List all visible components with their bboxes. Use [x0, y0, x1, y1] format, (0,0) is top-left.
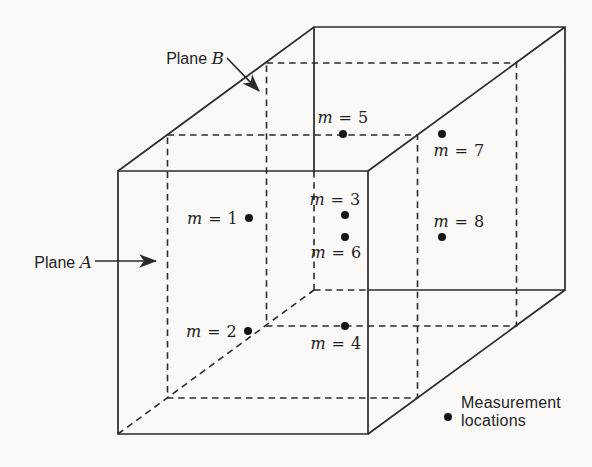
measurement-dot-m1 [245, 214, 253, 222]
plane-a-label: Plane A [34, 252, 92, 272]
plane-b-outline [267, 63, 517, 326]
measurement-dot-m2 [244, 327, 252, 335]
measurement-dot-m8 [438, 233, 446, 241]
measurement-label-m5: m = 5 [318, 108, 369, 127]
legend-line-2: locations [461, 412, 561, 430]
measurement-label-m8: m = 8 [434, 212, 485, 231]
measurement-label-m3: m = 3 [310, 190, 361, 209]
plane-a-letter: A [80, 252, 92, 272]
measurement-label-m7: m = 7 [434, 141, 485, 160]
legend-dot [444, 413, 452, 421]
plane-a-outline [168, 135, 418, 398]
plane-b-word: Plane [166, 50, 207, 67]
plane-b-arrow [227, 58, 259, 91]
measurement-label-m1: m = 1 [187, 209, 238, 228]
plane-a-word: Plane [34, 254, 75, 271]
measurement-dot-m6 [341, 233, 349, 241]
legend: Measurement locations [461, 394, 561, 430]
measurement-dot-m3 [341, 211, 349, 219]
plane-b-letter: B [212, 48, 225, 68]
plane-b-label: Plane B [166, 48, 224, 68]
measurement-label-m4: m = 4 [311, 334, 362, 353]
pointer-arrows [95, 58, 259, 261]
measurement-dot-m4 [341, 322, 349, 330]
measurement-label-m2: m = 2 [186, 322, 237, 341]
measurement-box-diagram: Plane B Plane A m = 1m = 2m = 3m = 4m = … [0, 0, 592, 467]
box-front-face [118, 171, 368, 434]
box-visible-edges [118, 27, 565, 434]
measurement-dot-m5 [339, 130, 347, 138]
measurement-label-m6: m = 6 [311, 243, 362, 262]
legend-line-1: Measurement [461, 394, 561, 412]
measurement-dot-m7 [438, 130, 446, 138]
box-hidden-edges [118, 171, 368, 434]
box-top-right-back-edges [118, 27, 565, 434]
